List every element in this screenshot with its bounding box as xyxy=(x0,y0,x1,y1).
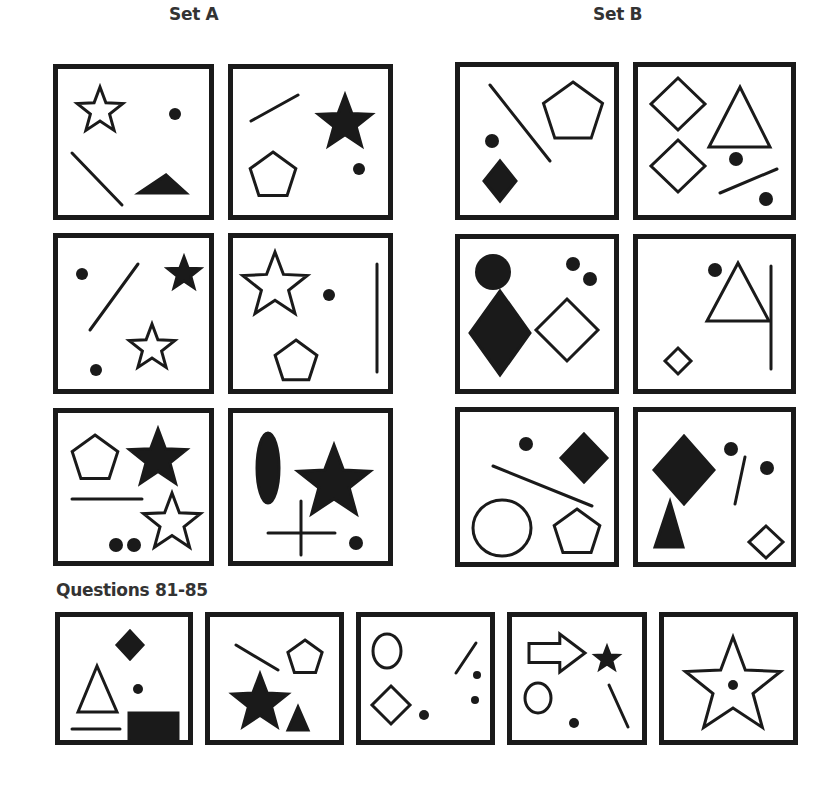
pentagon-outline-icon xyxy=(250,152,296,195)
dot-icon xyxy=(728,680,738,690)
pentagon-outline-icon xyxy=(72,435,118,478)
ellipse-filled-icon xyxy=(257,433,279,503)
panel-set-a-4 xyxy=(228,233,393,394)
dot-icon xyxy=(90,364,102,376)
diamond-outline-icon xyxy=(372,686,410,724)
line-outline-icon xyxy=(236,645,278,670)
star-outline-icon xyxy=(243,252,308,314)
star-filled-icon xyxy=(168,257,200,288)
dot-icon xyxy=(473,671,481,679)
dot-icon xyxy=(419,710,429,720)
diamond-outline-icon xyxy=(749,526,783,558)
line-outline-icon xyxy=(720,169,777,193)
line-outline-icon xyxy=(72,153,122,205)
star-filled-icon xyxy=(232,674,287,727)
dot-icon xyxy=(760,461,774,475)
panel-set-b-6 xyxy=(633,407,796,567)
panel-set-a-5 xyxy=(53,408,214,566)
panel-set-b-2 xyxy=(633,62,796,220)
triangle-filled-icon xyxy=(139,175,186,193)
panel-set-a-3 xyxy=(53,233,214,394)
star-outline-icon xyxy=(129,324,175,367)
star-outline-icon xyxy=(77,87,123,130)
dot-icon xyxy=(349,536,363,550)
panel-set-a-1 xyxy=(53,64,214,220)
star-filled-icon xyxy=(318,95,371,146)
panel-figure xyxy=(58,413,209,561)
panel-figure xyxy=(210,617,339,740)
dot-icon xyxy=(569,718,579,728)
triangle-filled-icon xyxy=(655,502,683,547)
diamond-outline-icon xyxy=(651,140,705,192)
star-filled-icon xyxy=(596,647,619,669)
dot-icon xyxy=(708,263,722,277)
panel-figure xyxy=(460,239,614,389)
panel-set-a-6 xyxy=(228,408,393,566)
dot-icon xyxy=(353,163,365,175)
set-b-heading: Set B xyxy=(593,4,642,24)
ellipse-outline-icon xyxy=(525,683,551,713)
diamond-filled-icon xyxy=(484,161,516,201)
questions-heading: Questions 81-85 xyxy=(56,580,208,600)
diamond-filled-icon xyxy=(470,291,530,375)
panel-figure xyxy=(638,412,791,562)
line-outline-icon xyxy=(735,457,745,504)
diamond-outline-icon xyxy=(536,299,598,361)
pentagon-outline-icon xyxy=(554,509,600,552)
pentagon-outline-icon xyxy=(544,82,603,138)
ellipse-outline-icon xyxy=(373,634,401,668)
panel-question-85 xyxy=(659,612,798,745)
star-outline-icon xyxy=(144,493,201,547)
panel-set-b-1 xyxy=(455,62,619,220)
pentagon-outline-icon xyxy=(275,340,317,380)
dot-icon xyxy=(169,108,181,120)
panel-figure xyxy=(638,67,791,215)
panel-figure xyxy=(58,238,209,389)
dot-icon xyxy=(485,134,499,148)
panel-figure xyxy=(460,412,614,562)
panel-set-b-4 xyxy=(633,234,796,394)
panel-figure xyxy=(233,413,388,561)
diamond-outline-icon xyxy=(651,78,705,130)
panel-figure xyxy=(361,617,490,740)
diamond-outline-icon xyxy=(665,348,691,374)
panel-figure xyxy=(512,617,642,740)
line-outline-icon xyxy=(609,685,628,727)
panel-figure xyxy=(664,617,793,740)
panel-figure xyxy=(233,69,388,215)
panel-figure xyxy=(638,239,791,389)
panel-question-84 xyxy=(507,612,647,745)
diamond-filled-icon xyxy=(561,434,607,482)
dot-icon xyxy=(724,442,738,456)
triangle-outline-icon xyxy=(709,87,770,147)
star-filled-icon xyxy=(298,445,370,514)
panel-question-81 xyxy=(55,612,193,745)
panel-question-83 xyxy=(356,612,495,745)
line-outline-icon xyxy=(490,85,550,161)
set-a-heading: Set A xyxy=(169,4,218,24)
dot-icon xyxy=(759,192,773,206)
rect-filled-icon xyxy=(129,713,178,741)
panel-set-b-3 xyxy=(455,234,619,394)
dot-icon xyxy=(471,696,479,704)
panel-figure xyxy=(60,617,188,740)
dot-icon xyxy=(127,538,141,552)
star-filled-icon xyxy=(130,429,187,483)
triangle-outline-icon xyxy=(78,666,117,712)
arrow-outline-icon xyxy=(529,634,585,672)
dot-icon xyxy=(76,268,88,280)
panel-figure xyxy=(58,69,209,215)
line-outline-icon xyxy=(90,264,138,330)
dot-icon xyxy=(323,289,335,301)
panel-set-b-5 xyxy=(455,407,619,567)
dot-icon xyxy=(475,254,511,290)
pentagon-outline-icon xyxy=(288,640,322,673)
line-outline-icon xyxy=(456,643,476,673)
triangle-filled-icon xyxy=(288,707,308,730)
panel-figure xyxy=(460,67,614,215)
diamond-filled-icon xyxy=(117,631,143,659)
dot-icon xyxy=(566,257,580,271)
dot-icon xyxy=(729,152,743,166)
diamond-filled-icon xyxy=(654,436,714,504)
dot-icon xyxy=(583,272,597,286)
